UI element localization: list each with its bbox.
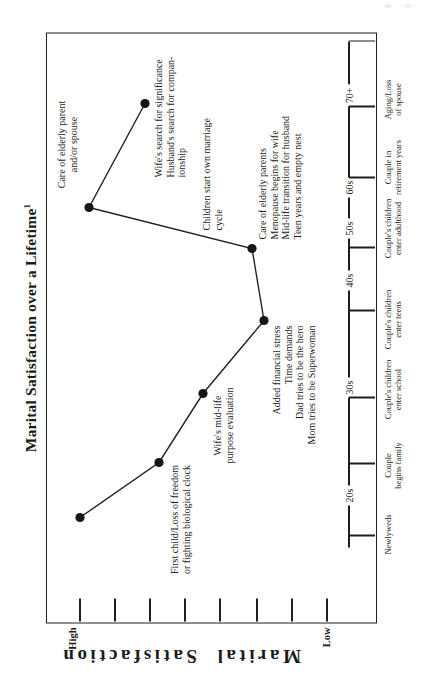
- annotation-line: Care of elderly parents: [257, 115, 269, 239]
- annotation-line: Wife's search for significance: [153, 56, 165, 177]
- annotation-line: Added financial stress: [271, 325, 283, 444]
- data-point: [154, 457, 163, 466]
- annotation-line: Mom tries to be Superwoman: [306, 325, 318, 444]
- rotated-chart-stage: Marital Satisfaction over a Lifetime1 Hi…: [0, 0, 424, 677]
- annotation-line: or fighting biological clock: [181, 464, 193, 573]
- annotation: First child/Loss of freedomor fighting b…: [169, 464, 192, 573]
- annotation: Care of elderly parentand/or spouse: [56, 100, 79, 187]
- annotation-line: Mid-life transition for husband: [280, 115, 292, 239]
- annotation-line: cycle: [213, 118, 225, 230]
- annotation-line: purpose evaluation: [224, 387, 236, 463]
- data-point: [84, 202, 93, 211]
- annotation: Wife's search for significanceHusband's …: [153, 56, 188, 177]
- annotation-line: Menopause begins for wife: [269, 115, 281, 239]
- annotation: Added financial stressTime demandsDad tr…: [271, 325, 317, 444]
- annotation: Care of elderly parentsMenopause begins …: [257, 115, 303, 239]
- annotation-line: First child/Loss of freedom: [169, 464, 181, 573]
- data-point: [140, 98, 149, 107]
- annotation-line: Husband's search for compan-: [165, 56, 177, 177]
- annotation-line: ionship: [176, 56, 188, 177]
- annotation: Children start own marriagecycle: [201, 118, 224, 230]
- annotation: Wife's mid-lifepurpose evaluation: [212, 387, 235, 463]
- annotation-line: Children start own marriage: [201, 118, 213, 230]
- data-point: [75, 512, 84, 521]
- data-point: [247, 243, 256, 252]
- annotation-line: Teen years and empty nest: [292, 115, 304, 239]
- annotation-line: and/or spouse: [68, 100, 80, 187]
- annotation-line: Care of elderly parent: [56, 100, 68, 187]
- annotation-line: Wife's mid-life: [212, 387, 224, 463]
- data-point: [259, 315, 268, 324]
- annotation-line: Dad tries to be the hero: [294, 325, 306, 444]
- annotation-line: Time demands: [283, 325, 295, 444]
- figure-page: Marital Satisfaction over a Lifetime1 Hi…: [0, 0, 424, 677]
